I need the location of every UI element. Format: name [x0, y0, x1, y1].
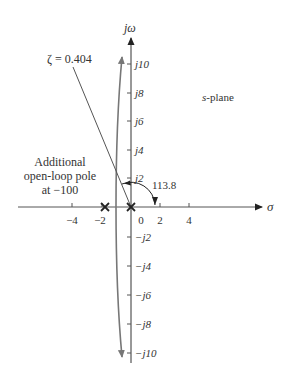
y-tick-label: j8: [133, 87, 144, 99]
annotation-line-1: Additional: [34, 155, 86, 169]
lower-locus-branch: [116, 207, 122, 357]
damping-ratio-label: ζ = 0.404: [47, 52, 92, 66]
arc-arrowhead-down-icon: [152, 197, 158, 205]
annotation-line-3: at −100: [42, 183, 78, 197]
s-plane-label: s-plane: [202, 91, 234, 103]
arc-arrowhead-left-icon: [124, 181, 131, 186]
sigma-axis-label: σ: [267, 199, 274, 214]
x-tick-label: 4: [186, 214, 192, 226]
x-tick-label: −2: [94, 214, 106, 226]
root-locus-diagram: −4 −2 0 2 4 j10 j8 j6 j4 j2 −j2 −j4 −j6 …: [0, 0, 288, 379]
jw-axis-label: jω: [122, 21, 136, 35]
y-axis-tick-labels: j10 j8 j6 j4 j2 −j2 −j4 −j6 −j8 −j10: [133, 58, 157, 359]
additional-pole-annotation: Additional open-loop pole at −100: [24, 155, 96, 197]
x-tick-label: 0: [138, 214, 144, 226]
upper-locus-branch: [116, 57, 122, 207]
y-tick-label: j10: [133, 58, 150, 70]
y-tick-label: j6: [133, 115, 144, 127]
x-axis-tick-labels: −4 −2 0 2 4: [66, 214, 192, 226]
s-plane-label-suffix: -plane: [206, 91, 234, 103]
angle-arc: [122, 182, 155, 205]
damping-ratio-line: [73, 67, 131, 207]
y-tick-label: −j4: [135, 260, 151, 272]
y-tick-label: −j8: [135, 318, 151, 330]
x-tick-label: −4: [66, 214, 78, 226]
angle-label: 113.8: [152, 179, 177, 191]
y-tick-label: −j6: [135, 289, 151, 301]
y-tick-label: j4: [133, 144, 144, 156]
y-tick-label: −j10: [135, 347, 157, 359]
x-tick-label: 2: [157, 214, 163, 226]
y-tick-label: −j2: [135, 231, 151, 243]
annotation-line-2: open-loop pole: [24, 169, 96, 183]
